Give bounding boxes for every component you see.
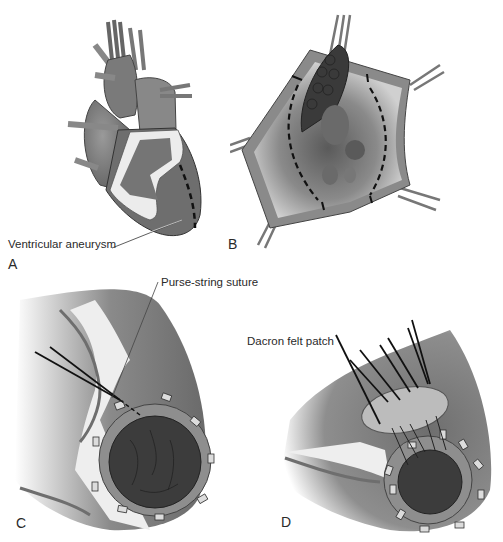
callout-dacron-felt-patch: Dacron felt patch bbox=[247, 335, 334, 347]
dacron-patch-illustration bbox=[250, 290, 503, 542]
panel-c: Purse-string suture C bbox=[0, 270, 260, 542]
callout-ventricular-aneurysm: Ventricular aneurysm bbox=[8, 238, 116, 250]
panel-letter-c: C bbox=[16, 515, 26, 531]
callout-purse-string-suture: Purse-string suture bbox=[161, 276, 258, 288]
panel-letter-d: D bbox=[281, 514, 291, 530]
panel-b: B bbox=[230, 0, 503, 280]
opened-ventricle-illustration bbox=[230, 0, 503, 280]
panel-d: Dacron felt patch D bbox=[250, 290, 503, 542]
panel-a: Ventricular aneurysm A bbox=[0, 0, 250, 280]
panel-letter-b: B bbox=[228, 236, 237, 252]
purse-string-closure-illustration bbox=[0, 270, 260, 542]
